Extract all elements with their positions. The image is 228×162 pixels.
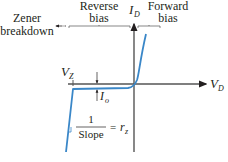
id-axis-label: I D (128, 2, 140, 19)
zener-label-line2: breakdown (0, 24, 53, 38)
vz-label: V Z (61, 64, 74, 81)
io-label: I o (99, 89, 109, 105)
fraction-numerator: 1 (88, 113, 94, 125)
forward-label-line2: bias (158, 11, 178, 25)
fraction-denominator: Slope (78, 128, 103, 140)
svg-text:o: o (105, 96, 109, 105)
rz-label: r z (120, 120, 129, 136)
forward-bias-bracket (138, 25, 160, 28)
zener-iv-diagram: Zener breakdown Reverse bias Forward bia… (0, 0, 228, 162)
svg-text:Z: Z (69, 72, 74, 81)
equals-sign: = (110, 121, 116, 133)
zener-label-line1: Zener (13, 11, 41, 25)
reverse-label-line2: bias (89, 11, 109, 25)
reverse-bias-bracket (69, 25, 130, 28)
svg-text:D: D (133, 10, 140, 19)
svg-text:z: z (124, 127, 129, 136)
vd-axis-label: V D (210, 76, 224, 93)
svg-text:D: D (217, 84, 224, 93)
